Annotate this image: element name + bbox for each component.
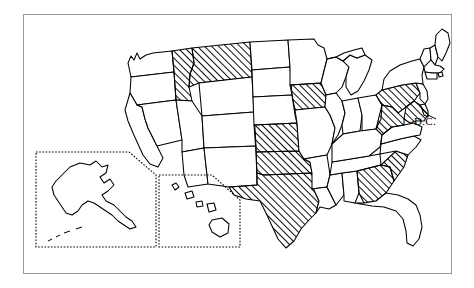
state-colorado[interactable] (202, 112, 256, 148)
mainland-states (125, 29, 450, 248)
state-iowa[interactable] (290, 83, 326, 110)
state-hawaii[interactable] (172, 183, 229, 237)
state-nebraska[interactable] (253, 95, 297, 125)
state-michigan[interactable] (343, 55, 372, 95)
state-kansas[interactable] (254, 123, 299, 152)
figure-frame: D.C. (23, 14, 452, 274)
state-utah[interactable] (176, 100, 204, 152)
state-wyoming[interactable] (199, 77, 254, 116)
state-rhodeisland[interactable] (438, 72, 443, 77)
us-choropleth-map: D.C. (24, 15, 451, 273)
state-minnesota[interactable] (288, 39, 327, 85)
state-missouri[interactable] (295, 107, 335, 159)
dc-label: D.C. (414, 115, 436, 127)
state-connecticut[interactable] (425, 72, 437, 79)
alaska-aleutians (48, 227, 82, 241)
state-arizona[interactable] (182, 148, 208, 187)
state-oregon[interactable] (130, 72, 176, 105)
state-alaska[interactable] (52, 161, 136, 229)
map-svg (24, 15, 453, 273)
state-newmexico[interactable] (204, 146, 257, 187)
state-alabama[interactable] (342, 171, 359, 203)
state-southdakota[interactable] (252, 67, 292, 97)
state-northdakota[interactable] (250, 40, 290, 70)
alaska-inset (36, 152, 156, 247)
